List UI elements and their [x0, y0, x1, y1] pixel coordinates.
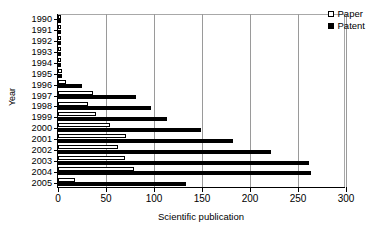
y-tick-label: 1990: [32, 14, 52, 24]
bar-patent: [58, 84, 82, 88]
filled-square-icon: [328, 23, 334, 29]
bar-paper: [58, 47, 61, 51]
bar-row: 2001: [58, 134, 345, 145]
x-tick-label: 150: [194, 193, 211, 204]
bar-paper: [58, 167, 134, 171]
bar-paper: [58, 178, 75, 182]
x-tick: [58, 187, 59, 192]
bar-patent: [58, 74, 62, 78]
x-tick-label: 250: [290, 193, 307, 204]
y-tick-label: 1996: [32, 80, 52, 90]
bar-patent: [58, 117, 167, 121]
bar-row: 1995: [58, 68, 345, 79]
x-tick-label: 200: [242, 193, 259, 204]
bar-paper: [58, 25, 61, 29]
bar-paper: [58, 156, 125, 160]
bar-patent: [58, 19, 61, 23]
x-tick-label: 100: [146, 193, 163, 204]
x-tick-label: 50: [100, 193, 111, 204]
x-tick-label: 300: [338, 193, 355, 204]
y-tick-label: 1998: [32, 101, 52, 111]
y-axis-title: Year: [7, 67, 17, 127]
bar-row: 2002: [58, 145, 345, 156]
bar-paper: [58, 91, 93, 95]
bar-row: 1998: [58, 101, 345, 112]
bar-row: 2003: [58, 155, 345, 166]
bar-row: 1999: [58, 112, 345, 123]
open-square-icon: [328, 11, 334, 17]
x-tick-label: 0: [55, 193, 61, 204]
bar-patent: [58, 128, 201, 132]
bar-paper: [58, 134, 126, 138]
y-tick-label: 1994: [32, 58, 52, 68]
bar-paper: [58, 69, 62, 73]
y-tick-label: 2000: [32, 123, 52, 133]
y-tick-label: 2004: [32, 167, 52, 177]
bar-patent: [58, 52, 61, 56]
bar-patent: [58, 171, 311, 175]
bar-chart: Year 19901991199219931994199519961997199…: [0, 0, 373, 231]
y-tick-label: 2003: [32, 156, 52, 166]
x-tick: [202, 187, 203, 192]
bar-paper: [58, 102, 88, 106]
bar-row: 2000: [58, 123, 345, 134]
bar-paper: [58, 145, 118, 149]
legend-label-paper: Paper: [338, 8, 363, 20]
bar-paper: [58, 36, 61, 40]
bar-row: 1991: [58, 25, 345, 36]
y-tick-label: 2002: [32, 145, 52, 155]
x-tick: [298, 187, 299, 192]
bar-patent: [58, 139, 233, 143]
x-tick: [346, 187, 347, 192]
bar-patent: [58, 182, 186, 186]
bar-patent: [58, 150, 271, 154]
bar-paper: [58, 80, 66, 84]
y-tick-label: 1991: [32, 25, 52, 35]
bar-row: 1990: [58, 14, 345, 25]
legend-item-patent: Patent: [328, 20, 365, 32]
bar-row: 2004: [58, 166, 345, 177]
y-tick-label: 2005: [32, 178, 52, 188]
x-tick: [106, 187, 107, 192]
bar-patent: [58, 95, 136, 99]
chart-legend: Paper Patent: [328, 8, 365, 32]
plot-area: 1990199119921993199419951996199719981999…: [57, 14, 345, 188]
legend-label-patent: Patent: [338, 20, 365, 32]
gridline: [346, 14, 347, 187]
y-tick-label: 1997: [32, 91, 52, 101]
bar-row: 1992: [58, 36, 345, 47]
x-axis-title: Scientific publication: [57, 211, 345, 222]
y-tick-label: 1993: [32, 47, 52, 57]
bar-paper: [58, 15, 61, 19]
x-tick: [154, 187, 155, 192]
bar-patent: [58, 161, 309, 165]
y-tick-label: 1999: [32, 112, 52, 122]
bar-paper: [58, 112, 96, 116]
x-tick: [250, 187, 251, 192]
bar-row: 1993: [58, 47, 345, 58]
bar-row: 1996: [58, 79, 345, 90]
bar-patent: [58, 63, 61, 67]
bar-row: 1994: [58, 58, 345, 69]
bar-patent: [58, 106, 151, 110]
y-tick-label: 2001: [32, 134, 52, 144]
bar-row: 1997: [58, 90, 345, 101]
bar-patent: [58, 41, 61, 45]
bar-paper: [58, 58, 61, 62]
bar-paper: [58, 123, 110, 127]
legend-item-paper: Paper: [328, 8, 365, 20]
bar-patent: [58, 30, 61, 34]
y-tick-label: 1992: [32, 36, 52, 46]
y-tick-label: 1995: [32, 69, 52, 79]
